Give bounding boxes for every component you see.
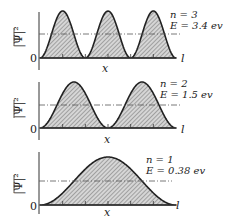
quantum-number-n1: n = 1: [146, 154, 174, 165]
end-label-n1: l: [176, 199, 180, 212]
energy-label-n2: E = 1.5 ev: [159, 89, 213, 100]
y-axis-label-n1: |Ψ|²: [12, 173, 26, 194]
x-axis-label-n1: x: [104, 206, 111, 216]
quantum-number-n3: n = 3: [170, 9, 198, 20]
end-label-n3: l: [181, 52, 185, 65]
panel-n2: |Ψ|² 0 x l n = 2 E = 1.5 ev: [12, 78, 213, 146]
wavefunction-diagram: |Ψ|² 0 x l n = 3 E = 3.4 ev |Ψ|² 0 x l n…: [0, 0, 226, 216]
end-label-n2: l: [181, 123, 185, 136]
origin-label-n1: 0: [30, 200, 37, 213]
energy-label-n1: E = 0.38 ev: [145, 165, 205, 176]
panel-n3: |Ψ|² 0 x l n = 3 E = 3.4 ev: [12, 9, 223, 75]
origin-label-n2: 0: [30, 123, 37, 136]
x-axis-label-n3: x: [102, 62, 109, 75]
y-axis-label-n3: |Ψ|²: [12, 26, 26, 47]
quantum-number-n2: n = 2: [160, 78, 188, 89]
energy-label-n3: E = 3.4 ev: [169, 20, 223, 31]
x-axis-label-n2: x: [104, 133, 111, 146]
probability-curve-n3: [40, 11, 176, 58]
origin-label-n3: 0: [30, 52, 37, 65]
y-axis-label-n2: |Ψ|²: [12, 97, 26, 118]
panel-n1: |Ψ|² 0 x l n = 1 E = 0.38 ev: [12, 152, 205, 216]
